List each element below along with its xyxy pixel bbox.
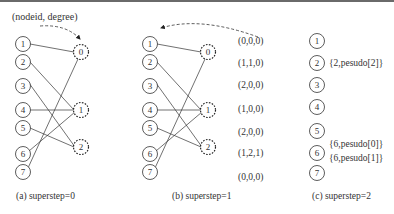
node-label: 3 [148, 81, 153, 91]
node-label: 7 [315, 168, 320, 178]
node-label: 1 [315, 36, 320, 46]
tuple: (2,0,0) [238, 80, 263, 91]
tuple: (1,2,1) [238, 148, 263, 159]
node-label: 6 [21, 149, 26, 159]
target-node-label: 2 [206, 142, 211, 152]
tuple: (0,0,0) [238, 172, 263, 183]
target-node-label: 1 [79, 105, 84, 115]
target-node-label: 2 [79, 142, 84, 152]
node-label: 2 [148, 57, 153, 67]
node-label: 1 [21, 39, 26, 49]
pseudo-annotations: {2,pesudo[2]} {6,pesudo[0]} {6,pesudo[1]… [329, 58, 383, 163]
degree-tuples: (0,0,0) (1,1,0) (2,0,0) (1,0,0) (2,0,0) … [238, 36, 263, 183]
node-label: 7 [21, 167, 26, 177]
panel-b: 1 2 3 4 5 6 7 0 1 2 (0,0,0) (1,1,0) (2,0… [143, 24, 264, 202]
tuple: (1,0,0) [238, 104, 263, 115]
annotation-node2: {2,pesudo[2]} [329, 58, 383, 68]
bsp-diagram: (nodeid, degree) 1 2 3 4 5 6 7 [0, 0, 394, 214]
tuple: (1,1,0) [238, 58, 263, 69]
caption-b: (b) superstep=1 [172, 191, 232, 202]
panel-a: (nodeid, degree) 1 2 3 4 5 6 7 [12, 11, 89, 202]
panel-c: 1 2 3 4 5 6 7 {2,pesudo[2]} {6,pesudo[0]… [310, 34, 384, 203]
target-nodes-a [74, 45, 89, 155]
target-node-label: 0 [206, 47, 211, 57]
node-label: 2 [315, 58, 320, 68]
annotation-node6b: {6,pesudo[1]} [329, 153, 383, 163]
edges-b [155, 44, 205, 168]
node-label: 6 [315, 148, 320, 158]
header-label: (nodeid, degree) [12, 11, 78, 23]
message-arrow [40, 26, 80, 39]
caption-a: (a) superstep=0 [16, 191, 75, 202]
message-arrow [161, 24, 258, 37]
node-label: 5 [315, 126, 320, 136]
node-label: 1 [148, 39, 153, 49]
node-label: 7 [148, 167, 153, 177]
caption-c: (c) superstep=2 [312, 191, 371, 202]
node-label: 4 [315, 102, 320, 112]
node-label: 3 [315, 80, 320, 90]
node-label: 5 [148, 123, 153, 133]
node-label: 4 [21, 105, 26, 115]
annotation-node6a: {6,pesudo[0]} [329, 139, 383, 149]
node-label: 6 [148, 149, 153, 159]
node-label: 2 [21, 57, 26, 67]
target-node-label: 1 [206, 105, 211, 115]
target-nodes-b [201, 45, 216, 155]
tuple: (2,0,0) [238, 127, 263, 138]
node-label: 4 [148, 105, 153, 115]
edges-a [28, 44, 78, 168]
target-node-label: 0 [79, 47, 84, 57]
node-label: 5 [21, 123, 26, 133]
node-label: 3 [21, 81, 26, 91]
tuple: (0,0,0) [238, 36, 263, 47]
